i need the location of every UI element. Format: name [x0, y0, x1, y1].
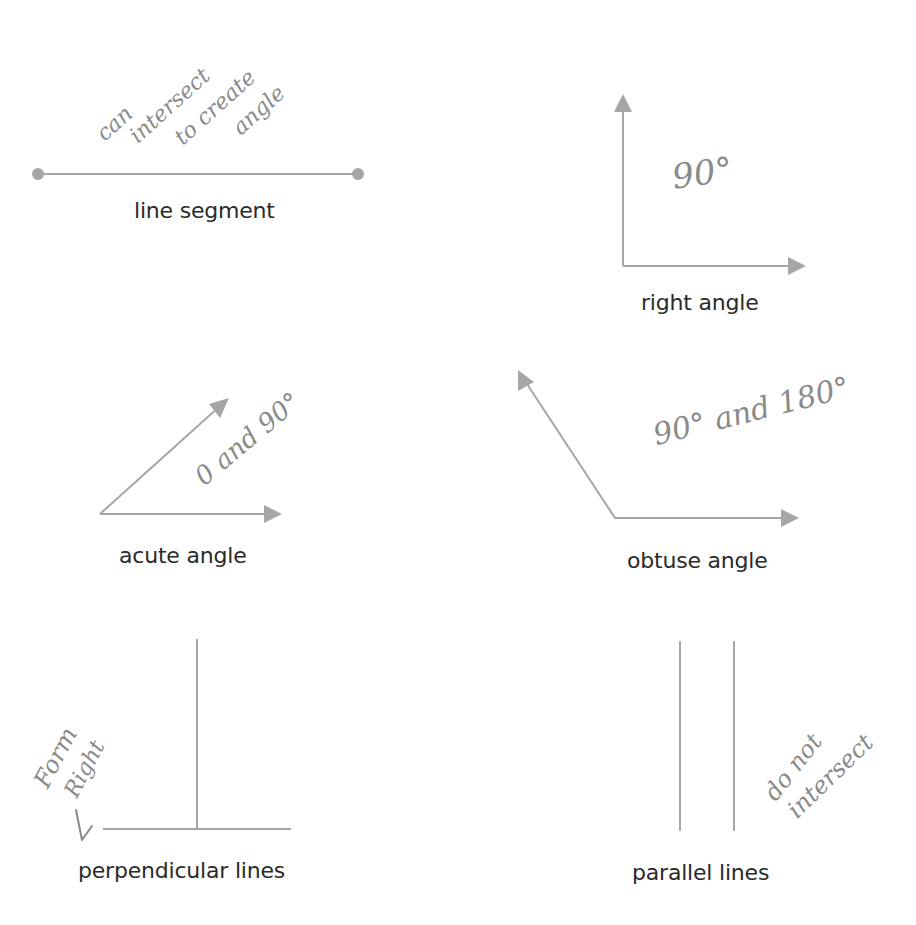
- arrowhead-diagonal-icon: [209, 398, 229, 418]
- perpendicular-lines-label: perpendicular lines: [78, 858, 285, 883]
- parallel-lines-figure: [680, 641, 734, 831]
- geometry-reference-sheet: line segment right angle acute angle obt…: [0, 0, 916, 925]
- right-angle-label: right angle: [641, 290, 759, 315]
- obtuse-angle-label: obtuse angle: [627, 548, 768, 573]
- line-segment-label: line segment: [134, 198, 275, 223]
- right-angle-annotation: 90°: [670, 152, 735, 196]
- perpendicular-lines-figure: [76, 639, 291, 840]
- arrowhead-up-icon: [614, 94, 632, 112]
- line-segment-figure: [32, 168, 364, 180]
- arrowhead-diagonal-icon: [518, 370, 534, 391]
- acute-angle-label: acute angle: [119, 543, 247, 568]
- arrowhead-right-icon: [264, 505, 282, 523]
- arrowhead-right-icon: [781, 509, 799, 527]
- handwritten-arrow-icon: [76, 810, 92, 840]
- arrowhead-right-icon: [788, 257, 806, 275]
- endpoint-icon: [32, 168, 44, 180]
- endpoint-icon: [352, 168, 364, 180]
- parallel-lines-label: parallel lines: [632, 860, 769, 885]
